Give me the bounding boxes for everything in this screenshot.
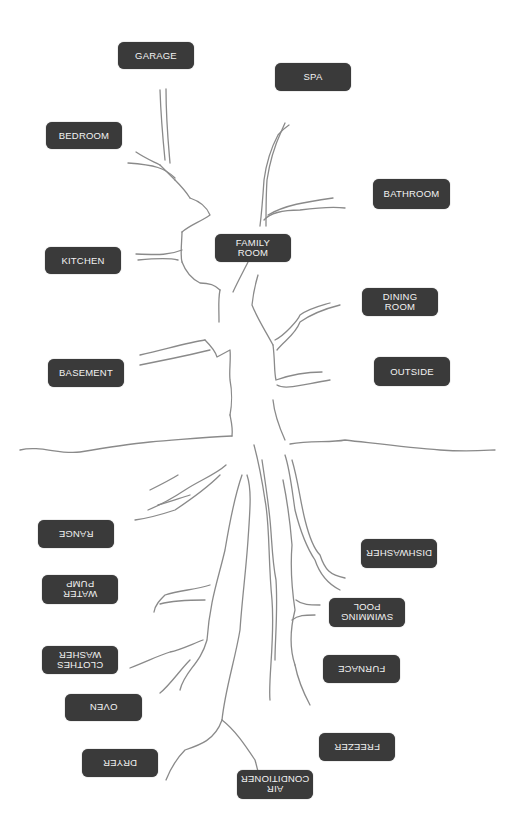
label-air-conditioner: AIR CONDITIONER (237, 770, 313, 799)
label-freezer: FREEZER (319, 733, 395, 761)
label-spa: SPA (275, 63, 351, 91)
label-bathroom: BATHROOM (373, 179, 450, 209)
label-kitchen: KITCHEN (45, 247, 121, 274)
tree-diagram: GARAGE SPA BEDROOM BATHROOM FAMILY ROOM … (0, 0, 523, 838)
label-swimming-pool: SWIMMING POOL (329, 598, 405, 627)
ground-line (290, 440, 495, 451)
label-dishwasher: DISHWASHER (361, 539, 437, 568)
label-dryer: DRYER (82, 749, 158, 777)
label-basement: BASEMENT (48, 359, 124, 387)
ground-line (20, 436, 232, 453)
label-bedroom: BEDROOM (46, 122, 122, 149)
label-outside: OUTSIDE (374, 357, 450, 386)
label-water-pump: WATER PUMP (42, 575, 118, 604)
label-clothes-washer: CLOTHES WASHER (42, 646, 118, 674)
label-family-room: FAMILY ROOM (215, 234, 291, 262)
label-garage: GARAGE (118, 42, 194, 69)
label-range: RANGE (38, 520, 114, 548)
label-furnace: FURNACE (323, 655, 400, 683)
label-dining-room: DINING ROOM (362, 288, 438, 316)
label-oven: OVEN (65, 694, 142, 721)
